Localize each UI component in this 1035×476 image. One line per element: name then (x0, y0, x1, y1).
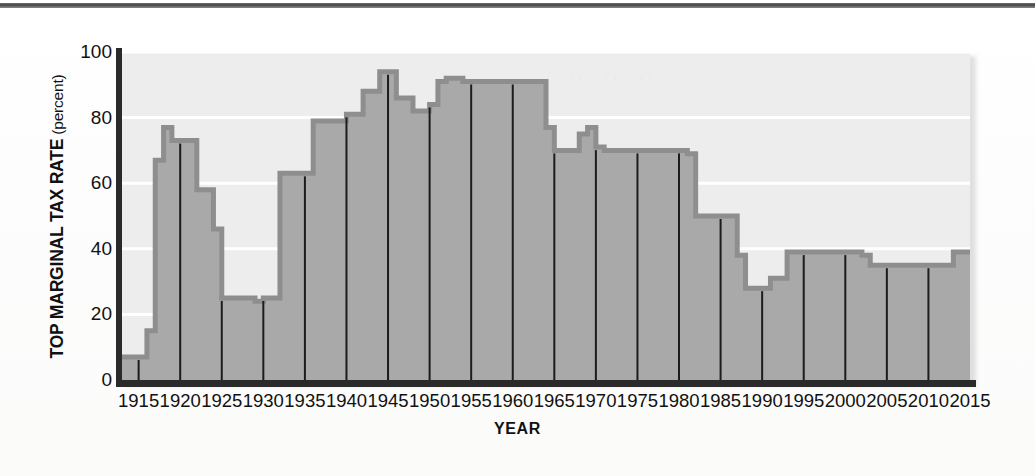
x-axis-title: YEAR (0, 420, 1035, 438)
x-axis-tick-labels: 1915192019251930193519401945195019551960… (0, 391, 1035, 417)
plot-area (122, 52, 970, 380)
x-axis-tick-2015: 2015 (940, 391, 1000, 411)
x-axis-line (116, 380, 976, 387)
y-axis-tick-40: 40 (66, 239, 112, 258)
y-axis-line (116, 48, 122, 384)
chart-svg (122, 52, 970, 380)
y-axis-tick-20: 20 (66, 304, 112, 323)
y-axis-tick-0: 0 (66, 370, 112, 389)
y-axis-tick-100: 100 (66, 42, 112, 61)
y-axis-title-main: TOP MARGINAL TAX RATE (47, 138, 67, 358)
y-axis-tick-80: 80 (66, 108, 112, 127)
chart-figure: TOP MARGINAL TAX RATE (percent) 02040608… (0, 0, 1035, 476)
y-axis-title-units: (percent) (49, 74, 66, 138)
y-axis-tick-60: 60 (66, 173, 112, 192)
